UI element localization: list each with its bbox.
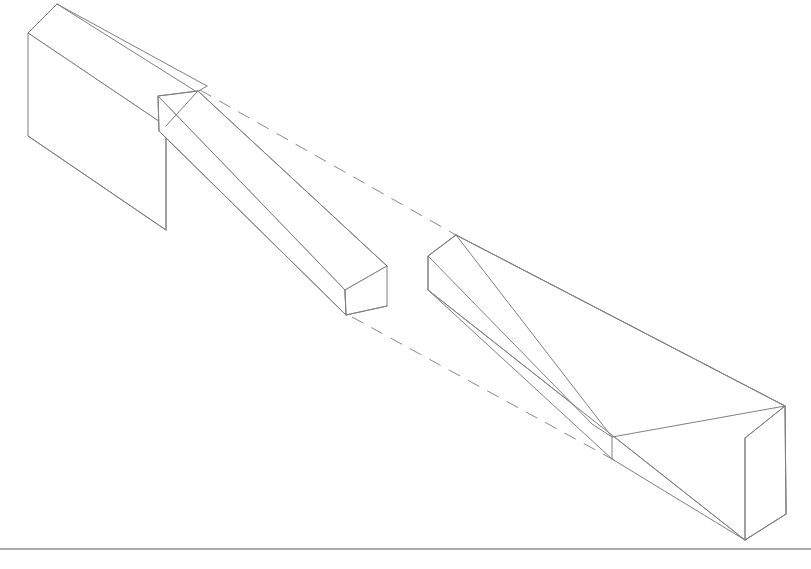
alignment-construction-lines	[200, 90, 614, 460]
right-beam-part	[428, 235, 786, 540]
tenon-top-face	[158, 91, 387, 290]
isometric-joint-drawing	[0, 0, 811, 569]
left-beam-part	[28, 4, 387, 315]
right-beam-top-face	[428, 235, 785, 437]
drawing-canvas	[0, 0, 811, 569]
